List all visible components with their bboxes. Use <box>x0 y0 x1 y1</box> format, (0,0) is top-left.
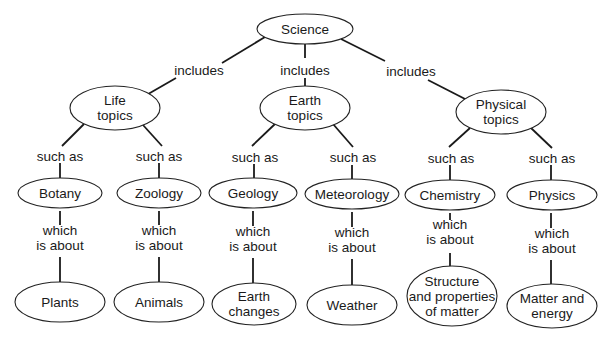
link-label: is about <box>528 241 576 256</box>
connector-line <box>222 37 265 63</box>
link-label: such as <box>428 151 475 166</box>
node-label: Earth <box>238 289 270 304</box>
concept-node-weather: Weather <box>307 285 397 325</box>
link-label: is about <box>426 232 474 247</box>
link-label: which <box>534 226 570 241</box>
concept-node-structure: Structureand propertiesof matter <box>407 266 497 326</box>
link-phrase-chemistry-structure: whichis about <box>426 217 474 247</box>
link-label: includes <box>386 64 436 79</box>
connector-line <box>333 124 353 147</box>
connector-line <box>341 39 385 61</box>
node-label: topics <box>97 108 133 123</box>
concept-node-chemistry: Chemistry <box>405 180 495 210</box>
node-label: Matter and <box>520 291 585 306</box>
link-label: includes <box>280 63 330 78</box>
concept-node-geology: Geology <box>209 178 297 208</box>
concept-node-animals: Animals <box>114 282 204 322</box>
connector-line <box>428 80 469 101</box>
link-phrase-life-botany: such as <box>37 149 84 164</box>
node-label: Animals <box>135 295 183 310</box>
node-label: Plants <box>41 295 79 310</box>
concept-node-zoology: Zoology <box>117 178 201 208</box>
link-label: such as <box>232 150 279 165</box>
concept-node-botany: Botany <box>18 178 102 208</box>
node-label: Meteorology <box>315 187 390 202</box>
concept-node-earth: Earthtopics <box>260 86 350 130</box>
concept-node-plants: Plants <box>15 282 105 322</box>
concept-node-physics: Physics <box>507 180 597 210</box>
concept-map-canvas: includesincludesincludessuch assuch assu… <box>0 0 611 346</box>
link-phrase-science-earth: includes <box>280 63 330 78</box>
node-label: Earth <box>289 93 321 108</box>
connector-line <box>252 124 275 146</box>
link-phrase-physical-chemistry: such as <box>428 151 475 166</box>
link-phrase-life-zoology: such as <box>136 149 183 164</box>
link-label: is about <box>36 238 84 253</box>
node-label: Botany <box>39 186 81 201</box>
link-phrase-earth-meteorology: such as <box>330 150 377 165</box>
node-label: energy <box>531 306 573 321</box>
node-label: topics <box>483 112 519 127</box>
link-label: such as <box>529 151 576 166</box>
link-label: is about <box>135 238 183 253</box>
link-label: is about <box>229 239 277 254</box>
link-label: is about <box>328 240 376 255</box>
node-label: Geology <box>228 186 279 201</box>
node-label: Structure <box>425 274 480 289</box>
link-phrase-physics-matter_energy: whichis about <box>528 226 576 256</box>
concept-node-matter-energy: Matter andenergy <box>507 284 597 328</box>
link-label: which <box>141 223 177 238</box>
node-label: Life <box>104 93 126 108</box>
concept-nodes: ScienceLifetopicsEarthtopicsPhysicaltopi… <box>15 14 597 328</box>
node-label: changes <box>228 304 279 319</box>
concept-node-science: Science <box>257 14 353 44</box>
concept-node-physical: Physicaltopics <box>456 90 546 134</box>
link-phrase-science-physical: includes <box>386 64 436 79</box>
connector-line <box>143 125 162 146</box>
concept-node-meteorology: Meteorology <box>305 179 399 209</box>
node-label: of matter <box>425 304 479 319</box>
link-phrase-zoology-animals: whichis about <box>135 223 183 253</box>
link-label: which <box>432 217 468 232</box>
node-label: and properties <box>409 289 496 304</box>
link-label: such as <box>136 149 183 164</box>
connector-line <box>449 128 470 147</box>
node-label: Physical <box>476 97 526 112</box>
node-label: Weather <box>327 298 378 313</box>
node-label: Zoology <box>135 186 183 201</box>
link-phrase-science-life: includes <box>174 63 224 78</box>
node-label: Science <box>281 22 329 37</box>
link-label: which <box>235 224 271 239</box>
node-label: Physics <box>529 188 576 203</box>
link-label: includes <box>174 63 224 78</box>
link-phrase-geology-earth_changes: whichis about <box>229 224 277 254</box>
concept-node-earth-changes: Earthchanges <box>212 283 296 325</box>
link-label: which <box>334 225 370 240</box>
link-phrase-botany-plants: whichis about <box>36 223 84 253</box>
link-phrase-earth-geology: such as <box>232 150 279 165</box>
link-phrase-physical-physics: such as <box>529 151 576 166</box>
node-label: topics <box>287 108 323 123</box>
node-label: Chemistry <box>420 188 481 203</box>
connector-line <box>62 124 84 146</box>
link-label: such as <box>330 150 377 165</box>
link-label: which <box>42 223 78 238</box>
link-phrase-meteorology-weather: whichis about <box>328 225 376 255</box>
link-label: such as <box>37 149 84 164</box>
connector-line <box>531 128 552 148</box>
concept-node-life: Lifetopics <box>70 86 160 130</box>
